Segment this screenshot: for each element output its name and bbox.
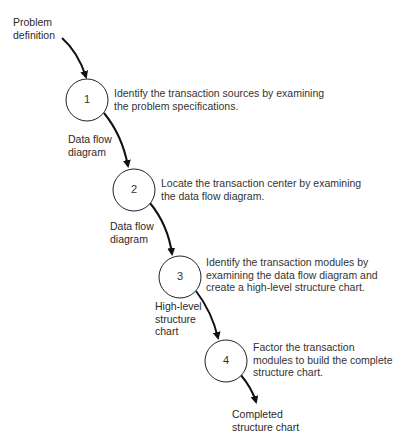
step-description-2: Locate the transaction center by examini… (161, 177, 361, 202)
step-description-3: Identify the transaction modules by exam… (206, 256, 378, 294)
step-number-2: 2 (113, 183, 155, 195)
step-number-3: 3 (159, 270, 201, 282)
step-number-4: 4 (205, 354, 247, 366)
step-description-4: Factor the transaction modules to build … (253, 341, 393, 379)
input-arrow (62, 38, 86, 77)
step1-output-label: Data flow diagram (68, 133, 112, 158)
step2-output-label: Data flow diagram (110, 220, 154, 245)
input-label: Problem definition (13, 16, 55, 41)
step-description-1: Identify the transaction sources by exam… (114, 87, 324, 112)
step-number-1: 1 (66, 93, 108, 105)
step3-output-label: High-level structure chart (155, 300, 202, 338)
output-label: Completed structure chart (232, 408, 299, 433)
